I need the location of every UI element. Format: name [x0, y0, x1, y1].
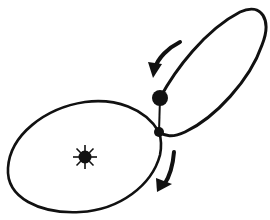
planet-small	[154, 127, 164, 137]
planet-large	[152, 90, 168, 106]
orbit-diagram	[0, 0, 270, 220]
sun-icon	[73, 145, 97, 169]
outer-orbit	[159, 9, 266, 136]
